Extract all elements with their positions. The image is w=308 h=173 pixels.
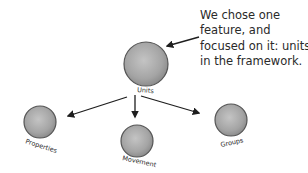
diagram-canvas: We chose one feature, and focused on it:… xyxy=(0,0,308,173)
node-circle xyxy=(121,125,153,157)
annotation-line: in the framework. xyxy=(200,54,302,68)
annotation-arrow xyxy=(167,37,199,46)
node-circle xyxy=(24,106,56,138)
annotation-note: We chose one feature, and focused on it:… xyxy=(200,8,308,68)
node-circle xyxy=(124,42,168,86)
node-properties[interactable]: Properties xyxy=(24,106,59,155)
node-label: Groups xyxy=(220,136,245,149)
annotation-line: focused on it: units xyxy=(200,39,308,53)
node-circle xyxy=(215,104,247,136)
annotation-line: We chose one xyxy=(200,8,280,22)
node-units[interactable]: Units xyxy=(124,42,168,95)
node-movement[interactable]: Movement xyxy=(121,125,157,169)
annotation-line: feature, and xyxy=(200,23,270,37)
node-label: Units xyxy=(137,86,155,95)
node-label: Properties xyxy=(24,137,58,155)
edge-units-properties xyxy=(68,97,127,116)
edge-units-groups xyxy=(141,96,199,113)
node-groups[interactable]: Groups xyxy=(215,104,247,149)
